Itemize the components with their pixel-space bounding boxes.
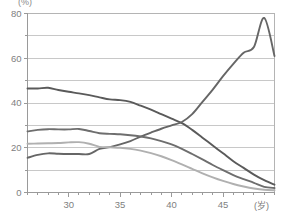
x-tick-label: 40	[166, 199, 177, 210]
x-tick-label: 45	[218, 199, 229, 210]
line-chart: (%) (岁) 02040608030354045	[0, 0, 287, 221]
x-tick-label: 35	[115, 199, 126, 210]
y-tick-label: 0	[16, 187, 21, 198]
y-tick-label: 80	[11, 8, 22, 19]
x-tick-label: 30	[63, 199, 74, 210]
x-axis-unit-label: (岁)	[254, 199, 269, 212]
y-axis-unit-label: (%)	[18, 0, 32, 7]
series-line	[28, 18, 275, 158]
y-tick-label: 40	[11, 97, 22, 108]
plot-area: 02040608030354045	[0, 0, 287, 221]
series-line	[28, 129, 275, 188]
series-line	[28, 142, 275, 190]
y-tick-label: 60	[11, 53, 22, 64]
y-tick-label: 20	[11, 142, 22, 153]
